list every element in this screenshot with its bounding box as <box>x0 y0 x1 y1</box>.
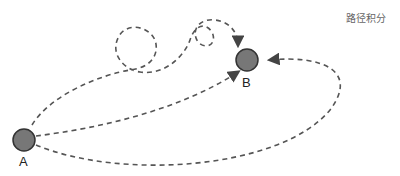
path-looping <box>32 20 238 125</box>
path-direct <box>36 72 238 136</box>
node-a-label: A <box>19 154 28 169</box>
path-integral-diagram: A B <box>0 0 400 176</box>
path-lower-arc <box>36 59 340 165</box>
node-b <box>236 49 258 71</box>
node-a <box>13 129 35 151</box>
node-b-label: B <box>242 75 251 90</box>
